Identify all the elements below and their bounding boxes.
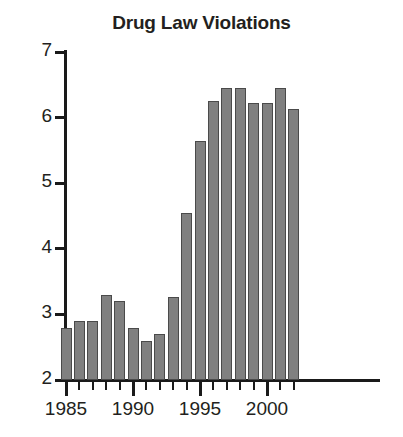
chart-title: Drug Law Violations — [0, 12, 403, 34]
bar — [154, 334, 165, 380]
bar — [262, 103, 273, 380]
bar — [141, 341, 152, 380]
bar — [235, 88, 246, 380]
x-tick-minor — [239, 382, 241, 390]
x-tick-minor — [119, 382, 121, 390]
x-tick-minor — [159, 382, 161, 390]
x-tick-minor — [293, 382, 295, 390]
x-tick-major — [132, 382, 135, 396]
bar-series — [0, 50, 403, 380]
x-tick-minor — [172, 382, 174, 390]
bar — [221, 88, 232, 380]
x-tick-major — [266, 382, 269, 396]
x-tick-minor — [92, 382, 94, 390]
bar — [275, 88, 286, 380]
bar — [87, 321, 98, 380]
bar — [128, 328, 139, 380]
bar — [248, 103, 259, 380]
x-tick-label: 1995 — [165, 398, 235, 420]
bar — [101, 295, 112, 380]
bar — [288, 109, 299, 380]
bar — [61, 328, 72, 380]
x-tick-minor — [253, 382, 255, 390]
x-tick-label: 1985 — [31, 398, 101, 420]
x-tick-minor — [226, 382, 228, 390]
x-tick-minor — [145, 382, 147, 390]
x-tick-minor — [105, 382, 107, 390]
bar — [195, 141, 206, 380]
x-tick-minor — [78, 382, 80, 390]
x-tick-label: 1990 — [98, 398, 168, 420]
x-tick-label: 2000 — [232, 398, 302, 420]
bar — [208, 101, 219, 380]
bar — [168, 297, 179, 380]
chart-figure: Drug Law Violations 234567 1985199019952… — [0, 0, 403, 437]
x-tick-major — [65, 382, 68, 396]
x-tick-minor — [212, 382, 214, 390]
x-tick-minor — [186, 382, 188, 390]
bar — [114, 301, 125, 380]
x-tick-major — [199, 382, 202, 396]
bar — [74, 321, 85, 380]
bar — [181, 213, 192, 380]
x-tick-minor — [279, 382, 281, 390]
